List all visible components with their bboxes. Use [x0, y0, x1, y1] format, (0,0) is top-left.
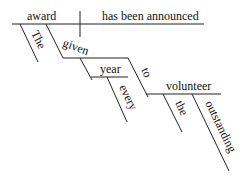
participle-word: given — [61, 36, 91, 58]
participle-slant — [46, 24, 63, 58]
subject-word: award — [27, 9, 56, 23]
modifier-word: every — [116, 82, 140, 112]
prep-article-word: the — [172, 98, 191, 117]
preposition-word: to — [138, 65, 155, 80]
predicate-word: has been announced — [102, 9, 199, 23]
object-word: year — [100, 62, 121, 76]
prep-object-word: volunteer — [166, 79, 211, 93]
object-slant — [80, 58, 92, 80]
sentence-diagram: award has been announced The given year … — [0, 0, 245, 179]
